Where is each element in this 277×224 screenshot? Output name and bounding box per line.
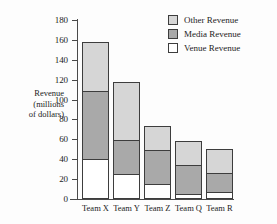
legend-swatch-icon — [168, 15, 178, 25]
legend-item: Venue Revenue — [168, 41, 241, 55]
chart-figure: Revenue (millions of dollars) 1801601401… — [0, 0, 277, 224]
bar-segment-other-revenue — [82, 42, 109, 92]
bar-segment-venue-revenue — [144, 184, 171, 199]
legend-item: Media Revenue — [168, 27, 241, 41]
legend-label: Other Revenue — [184, 15, 238, 25]
y-axis-tick-mark — [72, 199, 78, 200]
y-axis-tick-label: 120 — [55, 75, 68, 85]
x-axis-label-team-x: Team X — [79, 203, 112, 213]
y-axis-tick-label: 20 — [59, 174, 68, 184]
bar-segment-media-revenue — [82, 91, 109, 161]
legend-swatch-icon — [168, 29, 178, 39]
stacked-bar — [82, 42, 109, 199]
y-axis-tick-label: 100 — [55, 95, 68, 105]
y-axis-tick-label: 180 — [55, 15, 68, 25]
y-axis-tick-label: 140 — [55, 55, 68, 65]
y-axis-title-line-3: of dollars) — [8, 109, 64, 120]
bar-segment-venue-revenue — [82, 159, 109, 199]
y-axis-tick-label: 160 — [55, 35, 68, 45]
legend-swatch-icon — [168, 43, 178, 53]
x-axis-label-team-y: Team Y — [110, 203, 143, 213]
y-axis-tick-label: 80 — [59, 114, 68, 124]
bar-segment-venue-revenue — [206, 192, 233, 199]
bar-segment-media-revenue — [175, 165, 202, 195]
x-axis-label-team-q: Team Q — [172, 203, 205, 213]
stacked-bar — [113, 82, 140, 199]
bar-segment-venue-revenue — [175, 194, 202, 199]
stacked-bar — [206, 149, 233, 199]
bar-segment-media-revenue — [144, 150, 171, 185]
bar-segment-media-revenue — [206, 173, 233, 193]
x-axis-line — [70, 199, 234, 200]
y-axis-tick-label: 0 — [64, 194, 68, 204]
bar-segment-other-revenue — [144, 126, 171, 151]
bar-segment-other-revenue — [113, 82, 140, 142]
bar-segment-other-revenue — [175, 141, 202, 166]
legend-label: Venue Revenue — [184, 43, 240, 53]
y-axis-tick-label: 60 — [59, 134, 68, 144]
y-axis-tick-label: 40 — [59, 154, 68, 164]
bar-segment-venue-revenue — [113, 174, 140, 199]
legend-item: Other Revenue — [168, 13, 241, 27]
bar-segment-other-revenue — [206, 149, 233, 174]
x-axis-label-team-z: Team Z — [141, 203, 174, 213]
bar-segment-media-revenue — [113, 140, 140, 175]
stacked-bar — [144, 126, 171, 199]
stacked-bar — [175, 141, 202, 199]
legend-label: Media Revenue — [184, 29, 241, 39]
chart-legend: Other RevenueMedia RevenueVenue Revenue — [168, 13, 241, 55]
x-axis-label-team-r: Team R — [203, 203, 236, 213]
